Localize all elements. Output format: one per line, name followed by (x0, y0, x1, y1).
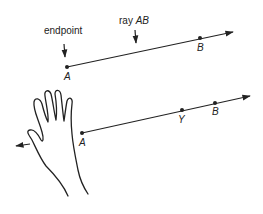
endpoint-arrow-icon (64, 44, 65, 57)
point-a2-label: A (78, 137, 86, 148)
ray-label: ray AB (119, 15, 149, 26)
point-a2-dot (80, 131, 84, 135)
point-b2-label: B (212, 106, 219, 117)
point-y-label: Y (178, 114, 186, 125)
ray-ab (65, 32, 233, 69)
endpoint-label: endpoint (44, 25, 83, 36)
point-b2-dot (213, 101, 217, 105)
point-y-dot (180, 108, 184, 112)
point-b-dot (198, 36, 202, 40)
ray-label-arrow-icon (135, 30, 136, 43)
point-a-dot (65, 65, 69, 69)
point-b-label: B (197, 42, 204, 53)
ray-diagram: endpoint ray AB A B A Y B (0, 0, 263, 214)
point-a-label: A (63, 71, 71, 82)
